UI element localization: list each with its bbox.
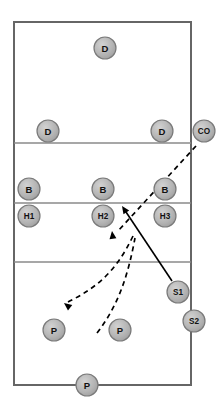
player-marker-co[interactable]: CO	[193, 120, 215, 142]
player-marker-p-bottom[interactable]: P	[76, 374, 98, 396]
marker-label-p-left: P	[51, 325, 58, 336]
marker-label-h3: H3	[160, 212, 171, 221]
marker-label-b-middle: B	[100, 184, 107, 195]
player-marker-d-top[interactable]: D	[94, 37, 116, 59]
marker-label-d-left: D	[45, 126, 52, 137]
marker-label-d-right: D	[159, 126, 166, 137]
marker-label-p-bottom: P	[84, 380, 91, 391]
marker-label-d-top: D	[102, 43, 109, 54]
player-marker-d-left[interactable]: D	[37, 120, 59, 142]
player-marker-h2[interactable]: H2	[92, 205, 114, 227]
volleyball-court-diagram: DDDCOBBBH1H2H3S1S2PPP	[0, 0, 224, 414]
marker-label-s1: S1	[173, 288, 183, 297]
marker-label-h2: H2	[98, 212, 109, 221]
player-marker-b-left[interactable]: B	[18, 178, 40, 200]
marker-label-s2: S2	[189, 317, 199, 326]
player-marker-b-middle[interactable]: B	[92, 178, 114, 200]
marker-label-p-middle: P	[117, 325, 124, 336]
court-svg: DDDCOBBBH1H2H3S1S2PPP	[0, 0, 224, 414]
player-marker-s2[interactable]: S2	[183, 310, 205, 332]
player-marker-s1[interactable]: S1	[167, 281, 189, 303]
player-marker-h1[interactable]: H1	[18, 205, 40, 227]
player-marker-b-right[interactable]: B	[154, 178, 176, 200]
player-marker-d-right[interactable]: D	[151, 120, 173, 142]
marker-label-h1: H1	[24, 212, 35, 221]
marker-label-co: CO	[198, 127, 211, 136]
player-marker-p-left[interactable]: P	[43, 319, 65, 341]
player-marker-p-middle[interactable]: P	[109, 319, 131, 341]
marker-label-b-left: B	[26, 184, 33, 195]
player-marker-h3[interactable]: H3	[154, 205, 176, 227]
marker-label-b-right: B	[162, 184, 169, 195]
